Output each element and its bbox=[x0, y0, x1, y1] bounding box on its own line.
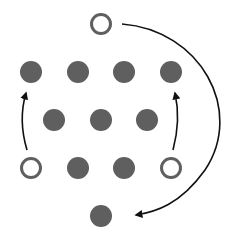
filled-circle-r2c3 bbox=[136, 109, 158, 131]
left-arrow bbox=[22, 93, 27, 150]
filled-circle-r1c4 bbox=[160, 61, 182, 83]
open-circle-r3c4 bbox=[162, 159, 181, 178]
filled-circle-r1c1 bbox=[20, 61, 42, 83]
filled-circle-r1c2 bbox=[67, 61, 89, 83]
filled-circle-r3c2 bbox=[67, 157, 89, 179]
filled-circle-bottom bbox=[90, 205, 112, 227]
token-diagram bbox=[0, 0, 238, 237]
nodes-layer bbox=[20, 15, 182, 228]
filled-circle-r3c3 bbox=[113, 157, 135, 179]
filled-circle-r2c2 bbox=[90, 109, 112, 131]
filled-circle-r1c3 bbox=[113, 61, 135, 83]
open-circle-top bbox=[92, 15, 111, 34]
right-arrow bbox=[173, 93, 178, 150]
open-circle-r3c1 bbox=[22, 159, 41, 178]
filled-circle-r2c1 bbox=[43, 109, 65, 131]
